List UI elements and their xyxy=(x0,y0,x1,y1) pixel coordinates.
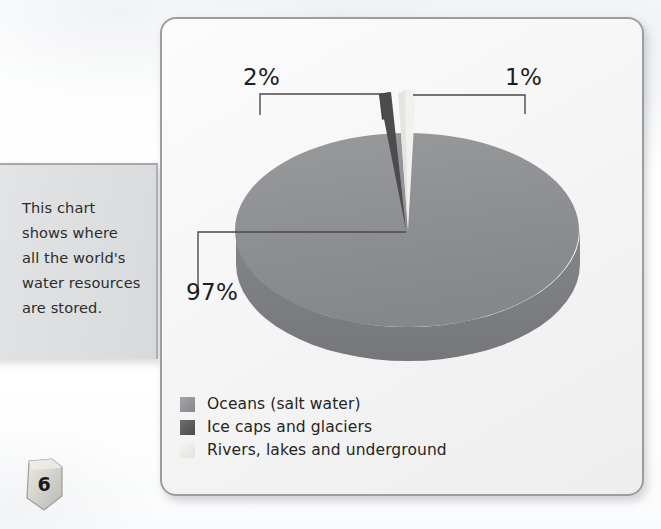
legend-swatch-rivers xyxy=(180,443,195,458)
legend-item-rivers: Rivers, lakes and underground xyxy=(180,439,490,461)
legend-item-oceans: Oceans (salt water) xyxy=(180,393,490,415)
leader-line-icecaps xyxy=(260,94,388,115)
pie-label-icecaps: 2% xyxy=(243,64,280,90)
legend-label-icecaps: Ice caps and glaciers xyxy=(207,418,372,436)
legend-swatch-icecaps xyxy=(180,420,195,435)
pie-label-rivers: 1% xyxy=(505,64,542,90)
legend-label-rivers: Rivers, lakes and underground xyxy=(207,441,447,459)
caption-text: This chart shows where all the world's w… xyxy=(22,195,146,320)
legend-label-oceans: Oceans (salt water) xyxy=(207,395,361,413)
page-number: 6 xyxy=(22,458,66,512)
legend-item-icecaps: Ice caps and glaciers xyxy=(180,416,490,438)
leader-line-rivers xyxy=(413,95,525,114)
chart-legend: Oceans (salt water) Ice caps and glacier… xyxy=(180,393,490,462)
pie-label-oceans: 97% xyxy=(186,279,238,305)
shield-badge-icon: 6 xyxy=(22,458,66,512)
caption-panel: This chart shows where all the world's w… xyxy=(0,163,158,359)
legend-swatch-oceans xyxy=(180,397,195,412)
